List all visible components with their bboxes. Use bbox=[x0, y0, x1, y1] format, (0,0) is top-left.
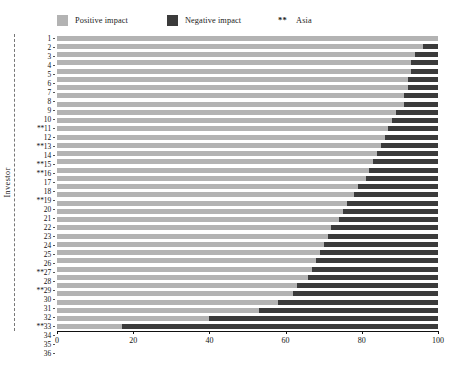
y-axis-tick-row: 26 bbox=[14, 259, 55, 268]
bar-track bbox=[57, 60, 438, 65]
x-axis-tick-mark bbox=[286, 331, 287, 334]
y-axis-tick-row: 8 bbox=[14, 97, 55, 106]
bar-row bbox=[57, 75, 438, 83]
y-axis-tick-row: 6 bbox=[14, 79, 55, 88]
y-axis-tick-row: 12 bbox=[14, 133, 55, 142]
x-axis-tick-mark bbox=[133, 331, 134, 334]
y-axis-tick-row: 24 bbox=[14, 241, 55, 250]
y-axis-tick-row: 21 bbox=[14, 214, 55, 223]
bar-segment-positive bbox=[57, 201, 347, 206]
x-axis-tick-label: 0 bbox=[55, 336, 59, 345]
bar-segment-positive bbox=[57, 118, 392, 123]
bar-row bbox=[57, 150, 438, 158]
bar-track bbox=[57, 176, 438, 181]
y-axis-tick-row: **19 bbox=[14, 196, 55, 205]
bar-row bbox=[57, 158, 438, 166]
bar-track bbox=[57, 93, 438, 98]
bar-track bbox=[57, 110, 438, 115]
y-axis-tick-row: 2 bbox=[14, 43, 55, 52]
y-axis-tick-row: **29 bbox=[14, 286, 55, 295]
y-axis-tick-mark bbox=[53, 83, 56, 84]
bar-row bbox=[57, 282, 438, 290]
bar-row bbox=[57, 92, 438, 100]
bar-segment-negative bbox=[373, 159, 438, 164]
bar-segment-positive bbox=[57, 85, 408, 90]
bar-row bbox=[57, 290, 438, 298]
bar-track bbox=[57, 209, 438, 214]
bar-segment-negative bbox=[381, 143, 438, 148]
bar-segment-negative bbox=[411, 60, 438, 65]
x-axis-line bbox=[57, 331, 438, 332]
bar-segment-positive bbox=[57, 283, 297, 288]
y-axis-tick-row: 5 bbox=[14, 70, 55, 79]
x-axis-tick-label: 80 bbox=[358, 336, 366, 345]
bar-track bbox=[57, 201, 438, 206]
bar-segment-negative bbox=[408, 77, 438, 82]
y-axis-tick-row: 10 bbox=[14, 115, 55, 124]
y-axis-tick-row: 35 bbox=[14, 340, 55, 349]
y-axis-tick-row: 28 bbox=[14, 277, 55, 286]
y-axis-tick-mark bbox=[53, 281, 56, 282]
bar-track bbox=[57, 143, 438, 148]
bar-track bbox=[57, 324, 438, 329]
bar-row bbox=[57, 323, 438, 331]
bar-segment-negative bbox=[354, 192, 438, 197]
bar-segment-negative bbox=[259, 308, 438, 313]
bar-row bbox=[57, 100, 438, 108]
legend-item-asia: ** Asia bbox=[278, 15, 312, 25]
bar-row bbox=[57, 84, 438, 92]
bar-segment-negative bbox=[328, 234, 438, 239]
x-axis-tick-label: 40 bbox=[205, 336, 213, 345]
bar-track bbox=[57, 300, 438, 305]
bar-track bbox=[57, 291, 438, 296]
bar-segment-negative bbox=[293, 291, 438, 296]
y-axis-tick-mark bbox=[53, 137, 56, 138]
bar-track bbox=[57, 151, 438, 156]
x-axis-tick-mark bbox=[438, 331, 439, 334]
bar-segment-negative bbox=[377, 151, 438, 156]
bar-segment-negative bbox=[388, 126, 438, 131]
bar-row bbox=[57, 249, 438, 257]
bar-segment-negative bbox=[347, 201, 438, 206]
bar-segment-positive bbox=[57, 267, 312, 272]
bar-segment-positive bbox=[57, 225, 331, 230]
y-axis-tick-mark bbox=[53, 263, 56, 264]
bar-segment-negative bbox=[385, 135, 438, 140]
bar-track bbox=[57, 316, 438, 321]
legend-item-negative-impact: Negative impact bbox=[167, 15, 241, 26]
bar-segment-negative bbox=[278, 300, 438, 305]
bar-segment-negative bbox=[209, 316, 438, 321]
bar-segment-positive bbox=[57, 110, 396, 115]
y-axis-title: Investor bbox=[0, 34, 14, 331]
y-axis-tick-row: 4 bbox=[14, 61, 55, 70]
bar-segment-negative bbox=[316, 258, 438, 263]
y-axis-tick-mark bbox=[53, 272, 56, 273]
bar-track bbox=[57, 184, 438, 189]
bar-row bbox=[57, 232, 438, 240]
x-axis-tick-label: 100 bbox=[432, 336, 444, 345]
y-axis-tick-mark bbox=[53, 101, 56, 102]
y-axis-tick-row: 36 bbox=[14, 349, 55, 358]
bar-segment-positive bbox=[57, 234, 328, 239]
bar-track bbox=[57, 258, 438, 263]
y-axis-tick-row: 7 bbox=[14, 88, 55, 97]
bar-segment-positive bbox=[57, 44, 423, 49]
legend-label-positive-impact: Positive impact bbox=[75, 16, 128, 25]
bar-segment-positive bbox=[57, 36, 438, 41]
bar-track bbox=[57, 242, 438, 247]
bar-segment-negative bbox=[396, 110, 438, 115]
bar-segment-negative bbox=[122, 324, 438, 329]
y-axis-tick-mark bbox=[53, 164, 56, 165]
bar-segment-positive bbox=[57, 308, 259, 313]
y-axis-tick-row: **15 bbox=[14, 160, 55, 169]
bar-segment-negative bbox=[343, 209, 438, 214]
y-axis-tick-row: 17 bbox=[14, 178, 55, 187]
legend-item-positive-impact: Positive impact bbox=[57, 15, 128, 26]
y-axis-tick-mark bbox=[53, 74, 56, 75]
plot-area bbox=[57, 34, 438, 331]
y-axis-tick-row: **16 bbox=[14, 169, 55, 178]
bar-track bbox=[57, 85, 438, 90]
bar-track bbox=[57, 102, 438, 107]
bar-track bbox=[57, 159, 438, 164]
bar-segment-negative bbox=[339, 217, 438, 222]
